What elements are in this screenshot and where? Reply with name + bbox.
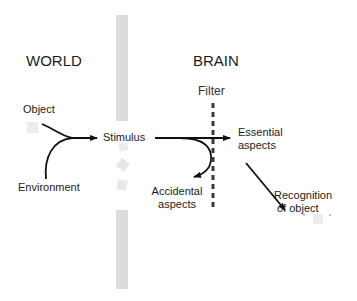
essential-aspects-label: Essential aspects bbox=[238, 126, 283, 152]
object-swatch bbox=[27, 122, 38, 133]
essential-line2: aspects bbox=[238, 139, 283, 152]
filter-label: Filter bbox=[198, 85, 225, 98]
recognition-line2: of object bbox=[274, 202, 332, 215]
accidental-aspects-label: Accidental aspects bbox=[147, 185, 207, 211]
recognition-line1: Recognition bbox=[274, 189, 332, 202]
world-heading: WORLD bbox=[26, 52, 82, 69]
recognized-object-swatch bbox=[313, 214, 323, 224]
accidental-line1: Accidental bbox=[147, 185, 207, 198]
recognition-of-object-label: Recognition of object bbox=[274, 189, 332, 215]
object-to-stimulus-arrow bbox=[42, 124, 97, 138]
environment-to-stimulus-arrow bbox=[46, 138, 72, 179]
barrier-fragment bbox=[116, 179, 128, 191]
brain-heading: BRAIN bbox=[193, 52, 239, 69]
environment-label: Environment bbox=[18, 181, 80, 194]
essential-line1: Essential bbox=[238, 126, 283, 139]
world-brain-barrier bbox=[116, 15, 130, 289]
barrier-upper-segment bbox=[116, 15, 128, 121]
barrier-fragment bbox=[116, 158, 130, 172]
world-brain-diagram bbox=[0, 0, 357, 301]
accidental-line2: aspects bbox=[147, 198, 207, 211]
object-label: Object bbox=[23, 103, 55, 116]
barrier-lower-segment bbox=[116, 210, 128, 289]
stimulus-label: Stimulus bbox=[103, 131, 145, 144]
stimulus-to-accidental-arrow bbox=[180, 138, 211, 177]
